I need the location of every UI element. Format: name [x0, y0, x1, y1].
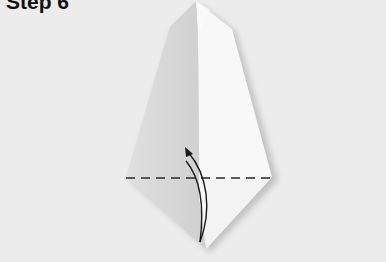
origami-figure	[0, 0, 386, 262]
paper-left-half	[126, 1, 206, 249]
